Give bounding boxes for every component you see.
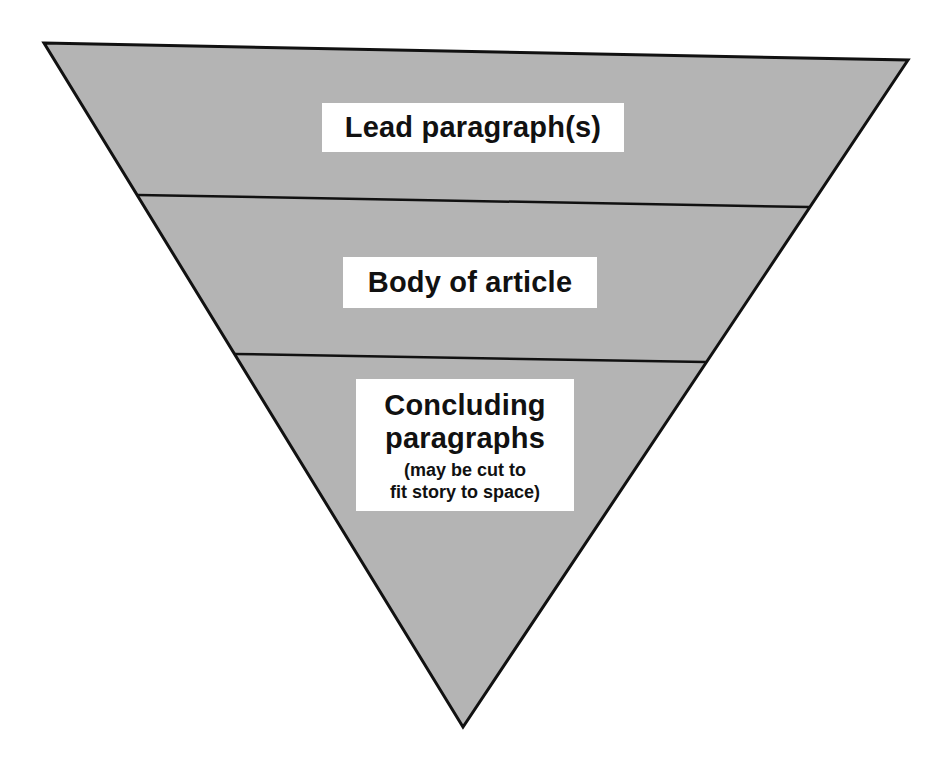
concluding-paragraphs-label: Concluding paragraphs (may be cut to fit… bbox=[356, 379, 574, 511]
concluding-note-line-1: (may be cut to bbox=[404, 459, 526, 481]
concluding-note-line-2: fit story to space) bbox=[390, 481, 540, 503]
body-of-article-text: Body of article bbox=[368, 266, 572, 299]
concluding-title-line-2: paragraphs bbox=[385, 422, 545, 455]
lead-paragraphs-label: Lead paragraph(s) bbox=[322, 103, 624, 152]
concluding-title-line-1: Concluding bbox=[384, 389, 545, 422]
lead-paragraphs-text: Lead paragraph(s) bbox=[345, 111, 601, 144]
body-of-article-label: Body of article bbox=[343, 257, 597, 308]
